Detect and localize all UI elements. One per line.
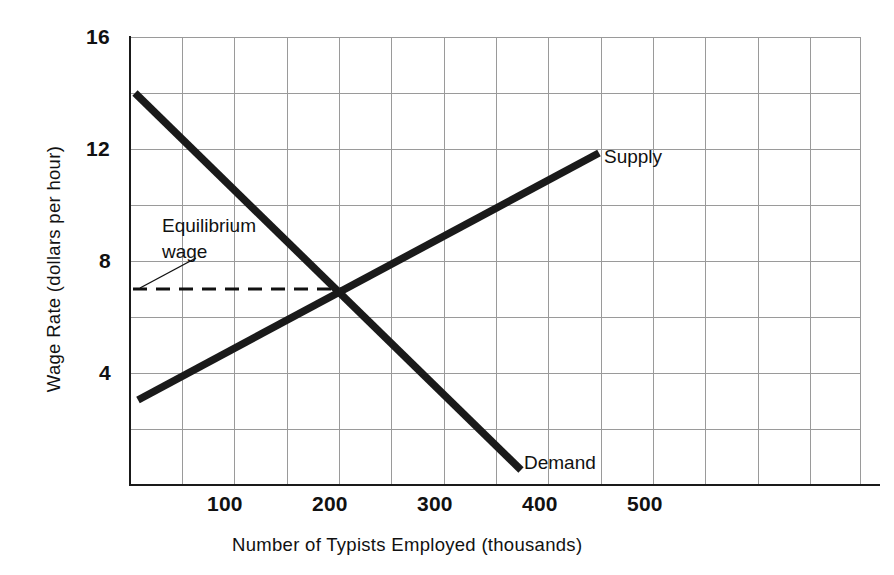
y-tick-8: 8 <box>99 249 111 273</box>
x-tick-200: 200 <box>312 492 348 516</box>
demand-curve <box>135 93 521 470</box>
supply-curve-label: Supply <box>604 146 662 168</box>
equilibrium-wage-line1: Equilibrium <box>162 213 256 239</box>
x-tick-100: 100 <box>207 492 243 516</box>
x-tick-400: 400 <box>522 492 558 516</box>
y-axis-title: Wage Rate (dollars per hour) <box>43 119 65 419</box>
y-tick-16: 16 <box>86 25 110 49</box>
demand-curve-label: Demand <box>524 452 596 474</box>
x-tick-300: 300 <box>417 492 453 516</box>
x-tick-500: 500 <box>627 492 663 516</box>
y-tick-12: 12 <box>86 137 110 161</box>
y-tick-4: 4 <box>99 361 111 385</box>
equilibrium-wage-annotation: Equilibrium wage <box>162 213 256 265</box>
x-axis-title: Number of Typists Employed (thousands) <box>232 534 582 556</box>
chart-canvas: 16 12 8 4 100 200 300 400 500 Wage Rate … <box>0 0 894 575</box>
supply-curve <box>138 153 599 400</box>
chart-svg <box>0 0 894 575</box>
equilibrium-wage-line2: wage <box>162 239 256 265</box>
